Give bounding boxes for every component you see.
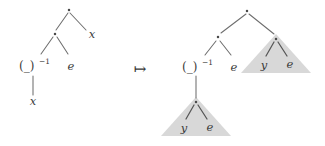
left-variable-x-top: x — [89, 27, 96, 41]
lower-triangle-apex-dot — [195, 101, 198, 104]
left-tree-group: · x (_) −1 e x — [19, 8, 96, 108]
right-root-to-triangle-edge — [249, 14, 274, 34]
maps-to-arrow-icon: ↦ — [134, 60, 147, 78]
right-inverse-operator: (_) −1 — [182, 58, 213, 74]
right-root-to-inner-edge — [221, 14, 246, 33]
left-inverse-exponent: −1 — [39, 57, 50, 66]
left-inner-to-inverse-edge — [41, 37, 53, 54]
right-inner-node-dot — [217, 36, 220, 39]
right-inner-to-inverse-edge — [205, 41, 216, 55]
lower-triangle-variable-y: y — [180, 121, 188, 135]
right-root-node-dot — [246, 10, 249, 13]
left-variable-x-bottom: x — [30, 94, 37, 108]
upper-triangle-variable-y: y — [260, 58, 268, 72]
left-inner-to-e-edge — [57, 37, 68, 54]
left-inverse-operator: (_) −1 — [19, 57, 50, 73]
left-unit-element-e: e — [68, 59, 75, 73]
left-root-to-inner-edge — [56, 13, 68, 30]
right-unit-element-e: e — [231, 60, 238, 74]
figure-canvas: · x (_) −1 e x ↦ — [0, 0, 325, 146]
right-inverse-exponent: −1 — [202, 58, 213, 67]
right-tree-group: (_) −1 e y e y e — [161, 10, 311, 136]
upper-triangle-unit-e: e — [287, 57, 294, 71]
left-root-node-dot — [68, 9, 71, 12]
left-inner-node-dot — [54, 33, 57, 36]
left-inverse-base: (_) — [19, 59, 34, 73]
right-inner-to-e-edge — [220, 41, 231, 55]
upper-triangle-apex-dot — [275, 38, 278, 41]
right-inverse-base: (_) — [182, 60, 197, 74]
lower-triangle-unit-e: e — [207, 120, 214, 134]
left-root-to-x-edge — [70, 13, 86, 30]
term-rewriting-figure: · x (_) −1 e x ↦ — [0, 0, 325, 146]
